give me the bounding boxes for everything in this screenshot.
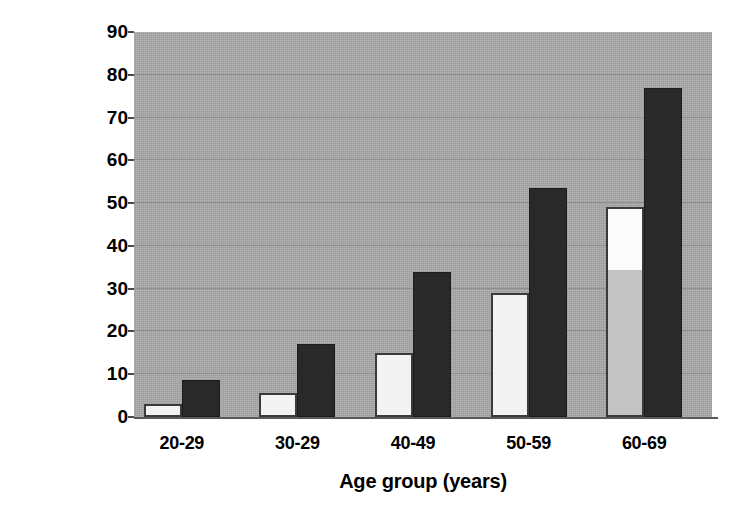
y-axis-tick-label: 90 [82,22,128,41]
gridline [134,159,712,160]
chart-figure: Percentage of population with hearing im… [0,0,736,518]
gridline [134,74,712,75]
x-axis-tick-label: 50-59 [479,432,579,454]
y-axis-tick-labels: 0102030405060708090 [78,0,128,430]
x-axis-tick-label: 60-69 [594,432,694,454]
y-axis-tick-label: 40 [82,236,128,255]
x-axis-tick-label: 40-49 [363,432,463,454]
bar-dark [297,344,335,417]
bar-light [144,404,182,417]
bar-dark [644,88,682,417]
x-axis-title: Age group (years) [134,470,712,493]
y-axis-tick-label: 10 [82,364,128,383]
bar-light [491,293,529,417]
y-axis-tick-label: 20 [82,321,128,340]
y-axis-tick-label: 70 [82,108,128,127]
bar-light [375,353,413,417]
y-axis-tick-label: 0 [82,407,128,426]
y-axis-title: Percentage of population with hearing im… [0,0,72,430]
y-axis-tick-label: 30 [82,279,128,298]
bar-light [259,393,297,417]
bar-segment-upper [608,209,642,273]
plot-area [134,32,712,417]
x-axis-tick-label: 20-29 [132,432,232,454]
y-axis-tick-label: 50 [82,193,128,212]
bar-dark [529,188,567,417]
gridline [134,117,712,118]
x-axis-line [134,417,718,419]
x-axis-tick-label: 30-29 [247,432,347,454]
y-axis-tick-label: 80 [82,65,128,84]
x-axis-tick-labels: 20-2930-2940-4950-5960-69 [134,432,712,462]
bar-light [606,207,644,417]
bar-dark [413,272,451,417]
bar-dark [182,380,220,417]
gridline [134,202,712,203]
bar-segment-lower [608,270,642,415]
y-axis-tick-label: 60 [82,150,128,169]
